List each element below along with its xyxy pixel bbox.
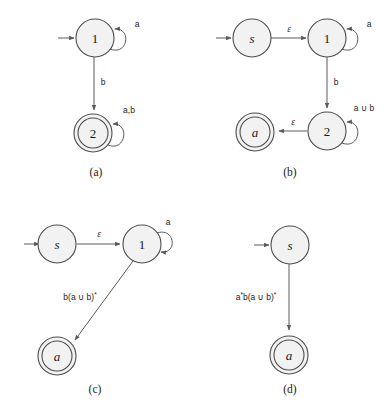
panel-c-caption: (c)	[89, 383, 102, 396]
panel-a-state-2-label: 2	[90, 126, 97, 141]
panel-b-selfloop-1-label: a	[367, 19, 372, 29]
panel-a-edge-1-to-2-label: b	[101, 77, 106, 87]
panel-b-edge-s-to-1-label: ε	[287, 24, 291, 34]
panel-b: s ε 1 a b 2 a ∪ b ε a	[216, 19, 374, 179]
panel-a-selfloop-1-label: a	[135, 19, 140, 29]
automata-figure-svg: 1 a b 2 a,b (a) s ε	[0, 0, 391, 415]
panel-c-state-a-label: a	[54, 349, 61, 364]
panel-c-edge-s-to-1-label: ε	[97, 229, 101, 239]
panel-a: 1 a b 2 a,b (a)	[58, 19, 140, 179]
panel-b-state-1-label: 1	[324, 31, 331, 46]
panel-b-edge-1-to-2-label: b	[334, 77, 339, 87]
panel-a-state-1-label: 1	[92, 31, 99, 46]
panel-a-caption: (a)	[90, 166, 103, 179]
panel-d-edge-s-to-a-label: a*b(a ∪ b)*	[236, 291, 277, 303]
panel-b-caption: (b)	[283, 166, 297, 179]
panel-b-edge-2-to-a-label: ε	[291, 117, 295, 127]
panel-b-state-s-label: s	[249, 31, 254, 46]
panel-a-selfloop-2-label: a,b	[123, 105, 135, 115]
panel-c-state-1-label: 1	[139, 237, 146, 252]
panel-b-state-a-label: a	[252, 125, 259, 140]
panel-c: s ε 1 a b(a ∪ b)* a (c)	[24, 217, 172, 396]
panel-c-state-s-label: s	[54, 237, 59, 252]
figure-root: 1 a b 2 a,b (a) s ε	[0, 0, 391, 415]
panel-d-state-s-label: s	[287, 238, 292, 253]
panel-b-selfloop-2-label: a ∪ b	[354, 103, 375, 113]
panel-d-state-a-label: a	[286, 348, 293, 363]
panel-d: s a*b(a ∪ b)* a (d)	[236, 226, 309, 396]
panel-c-edge-1-to-a-label: b(a ∪ b)*	[63, 291, 97, 303]
panel-b-state-2-label: 2	[324, 124, 331, 139]
panel-d-caption: (d)	[283, 383, 297, 396]
panel-c-selfloop-1-label: a	[166, 217, 171, 227]
